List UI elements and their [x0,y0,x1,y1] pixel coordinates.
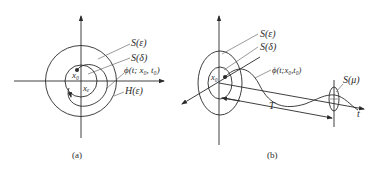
leader-s-eps-a [98,44,130,59]
label-phi-b: ϕ(t;x₀,t₀) [272,65,302,75]
leader-s-mu [336,84,343,92]
label-phi-a: ϕ(t; x₀, t₀) [124,65,160,75]
panel-b: S(ε) S(δ) ϕ(t;x₀,t₀) S(μ) x₀ T t (b) [182,16,364,160]
label-s-delta-b: S(δ) [260,41,277,53]
T-arrow-left [222,98,240,101]
label-h-epsilon-a: H(ε) [124,85,143,97]
leader-s-delta-b [224,47,258,70]
stability-diagram: S(ε) S(δ) ϕ(t; x₀, t₀) H(ε) x₀ xₑ (a) [0,0,377,170]
label-x0-b: x₀ [210,72,218,82]
diagonal-axis-b [182,57,260,104]
panel-a: S(ε) S(δ) ϕ(t; x₀, t₀) H(ε) x₀ xₑ (a) [14,16,164,160]
label-s-mu: S(μ) [343,74,360,86]
t-axis [219,83,364,109]
leader-phi-b [255,70,271,78]
label-xe-a: xₑ [82,83,90,93]
T-arrow-right [224,98,332,118]
label-s-epsilon-b: S(ε) [260,28,276,40]
label-t: t [357,108,360,119]
label-s-epsilon-a: S(ε) [131,37,147,49]
caption-a: (a) [72,150,82,160]
label-T: T [269,100,276,111]
label-s-delta-a: S(δ) [131,52,148,64]
label-x0-a: x₀ [71,70,79,80]
leader-h-eps-a [114,92,124,96]
caption-b: (b) [267,150,278,160]
